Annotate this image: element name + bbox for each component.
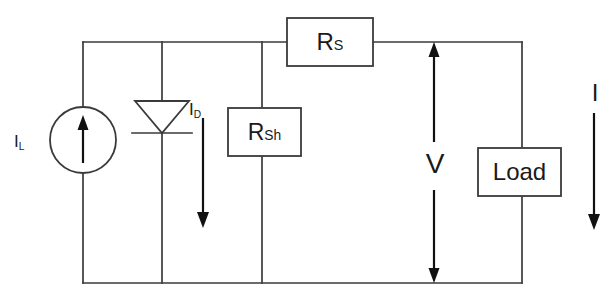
- diode-current-arrow: [197, 118, 209, 228]
- diode-current-label-sub: D: [194, 109, 201, 120]
- diode-symbol: [132, 101, 192, 133]
- series-resistor-label-base: R: [317, 30, 334, 54]
- shunt-resistor-label: RSh: [228, 108, 301, 156]
- current-source-label: IL: [14, 133, 24, 150]
- circuit-diagram-canvas: IL ID RS RSh V Load I: [0, 0, 612, 294]
- series-resistor-label-sub: S: [334, 38, 344, 52]
- shunt-resistor-label-sub: Sh: [264, 129, 281, 143]
- output-current-label: I: [586, 81, 604, 105]
- current-source-label-sub: L: [19, 141, 25, 152]
- output-current-arrow: [588, 113, 600, 230]
- diode-current-label: ID: [189, 101, 201, 118]
- load-label: Load: [478, 148, 561, 196]
- shunt-resistor-label-base: R: [248, 121, 265, 144]
- series-resistor-label: RS: [287, 18, 373, 66]
- current-source-symbol: [50, 107, 116, 173]
- voltage-label: V: [418, 150, 452, 178]
